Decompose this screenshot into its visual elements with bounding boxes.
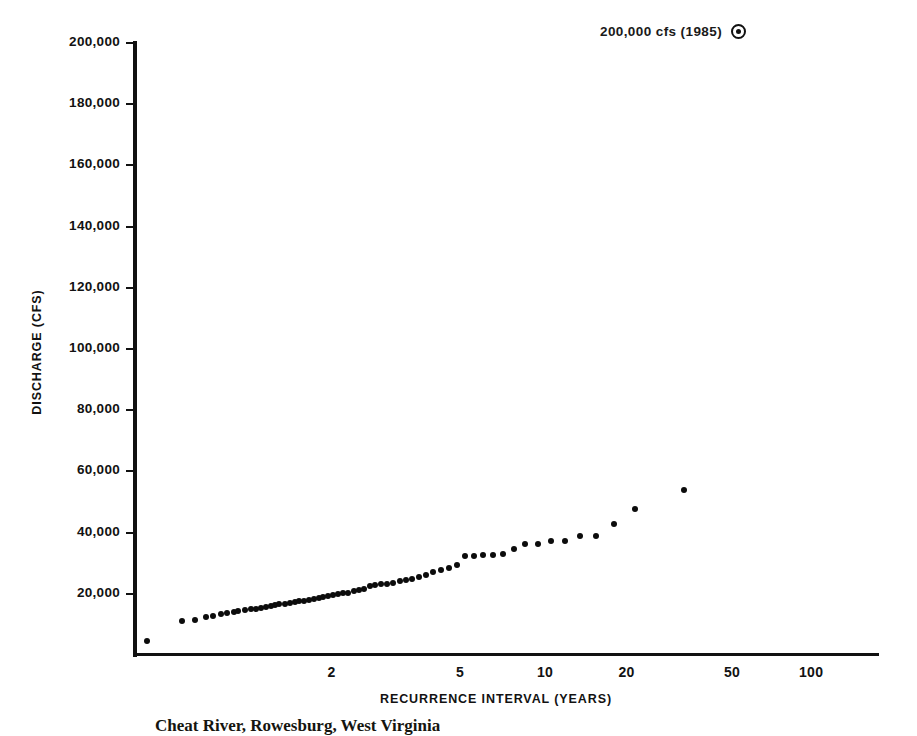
data-point (203, 614, 209, 620)
data-point (144, 638, 150, 644)
data-point (681, 487, 687, 493)
legend-annotation: 200,000 cfs (1985) (600, 24, 746, 39)
x-tick-label: 10 (537, 664, 553, 680)
data-point (210, 613, 216, 619)
data-point (242, 607, 248, 613)
x-tick-label: 50 (724, 664, 740, 680)
data-point (454, 562, 460, 568)
data-point (480, 552, 486, 558)
data-point (179, 618, 185, 624)
annotation-label: 200,000 cfs (1985) (600, 24, 722, 39)
data-point (511, 546, 517, 552)
x-axis-title-text: RECURRENCE INTERVAL (YEARS) (380, 692, 612, 706)
data-point (446, 565, 452, 571)
data-point (438, 567, 444, 573)
x-tick-label: 100 (799, 664, 823, 680)
y-tick-label: 20,000 (0, 585, 120, 600)
y-tick-mark (126, 164, 134, 166)
data-point (522, 541, 528, 547)
data-point (384, 581, 390, 587)
y-tick-mark (126, 103, 134, 105)
data-point (235, 608, 241, 614)
x-tick-label: 20 (618, 664, 634, 680)
y-tick-mark (126, 470, 134, 472)
data-point (224, 610, 230, 616)
data-point (471, 553, 477, 559)
y-tick-label: 40,000 (0, 524, 120, 539)
y-tick-mark (126, 42, 134, 44)
y-tick-label: 80,000 (0, 401, 120, 416)
figure-caption: Cheat River, Rowesburg, West Virginia (155, 716, 440, 736)
data-point (632, 506, 638, 512)
data-point (423, 572, 429, 578)
y-tick-label: 200,000 (0, 34, 120, 49)
data-point (500, 551, 506, 557)
x-axis-title: RECURRENCE INTERVAL (YEARS) (0, 692, 917, 706)
data-point (409, 576, 415, 582)
y-tick-mark (126, 532, 134, 534)
data-point (462, 553, 468, 559)
data-point (611, 521, 617, 527)
y-tick-label: 140,000 (0, 218, 120, 233)
x-tick-label: 5 (456, 664, 464, 680)
data-point (192, 617, 198, 623)
data-point (577, 533, 583, 539)
circled-dot-icon (731, 24, 746, 39)
data-point (593, 533, 599, 539)
data-point (490, 552, 496, 558)
data-point (390, 580, 396, 586)
y-tick-label: 100,000 (0, 340, 120, 355)
y-tick-label: 160,000 (0, 156, 120, 171)
y-tick-mark (126, 348, 134, 350)
data-point (548, 538, 554, 544)
y-tick-label: 120,000 (0, 279, 120, 294)
data-point (430, 569, 436, 575)
data-point (397, 578, 403, 584)
y-tick-label: 180,000 (0, 95, 120, 110)
data-point (416, 574, 422, 580)
y-tick-label: 60,000 (0, 462, 120, 477)
data-point (562, 538, 568, 544)
y-tick-mark (126, 409, 134, 411)
data-point (535, 541, 541, 547)
x-tick-label: 2 (328, 664, 336, 680)
y-axis-title: DISCHARGE (CFS) (30, 252, 44, 452)
y-tick-mark (126, 593, 134, 595)
y-tick-mark (126, 287, 134, 289)
y-tick-mark (126, 226, 134, 228)
data-point (403, 577, 409, 583)
x-axis-line (133, 653, 879, 656)
